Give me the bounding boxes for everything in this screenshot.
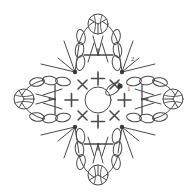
slip-stitch-dot-start-icon	[117, 83, 122, 88]
arm-right	[126, 75, 183, 123]
center-x-group	[78, 80, 119, 120]
guide-lines-northwest	[41, 41, 79, 72]
x-southeast-icon	[110, 111, 119, 120]
arm-down	[74, 128, 122, 185]
plus-north-icon	[92, 72, 105, 85]
guide-lines-southwest	[41, 127, 79, 158]
round-1-label: 1	[127, 86, 131, 93]
round-2-label: 2	[131, 56, 135, 63]
slip-stitch-dot-nw-icon	[73, 70, 77, 74]
guide-lines-northeast	[118, 41, 155, 72]
chart-strokes	[14, 14, 183, 185]
arm-up	[74, 14, 122, 71]
x-southwest-icon	[78, 111, 87, 120]
stitch-chart-svg	[0, 0, 196, 195]
stitch-chart-figure: 1 2	[0, 0, 196, 195]
center-plus-group	[65, 72, 131, 128]
slip-stitch-dot-ne-icon	[120, 70, 124, 74]
guide-lines-southeast	[118, 127, 155, 158]
plus-east-icon	[118, 94, 131, 107]
plus-south-icon	[92, 115, 105, 128]
plus-west-icon	[65, 94, 78, 107]
slip-stitch-dot-se-icon	[120, 125, 124, 129]
center-ring-icon	[85, 87, 111, 113]
arm-left	[14, 75, 71, 123]
x-northwest-icon	[78, 80, 87, 89]
slip-stitch-dot-sw-icon	[73, 125, 77, 129]
